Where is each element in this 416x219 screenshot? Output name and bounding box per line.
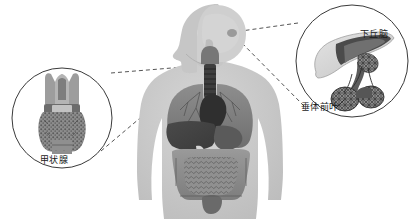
- label-anterior-pituitary: 垂体前叶: [301, 103, 339, 112]
- anatomy-illustration: [0, 0, 416, 219]
- small-intestine: [184, 157, 238, 196]
- label-thyroid: 甲状腺: [40, 156, 68, 165]
- liver: [166, 121, 216, 151]
- label-hypothalamus: 下丘脑: [360, 30, 388, 39]
- human-body: [137, 4, 283, 219]
- thyroid-gland: [38, 73, 85, 154]
- anatomy-figure: 甲状腺 下丘脑 垂体前叶: [0, 0, 416, 219]
- callout-thyroid: [12, 68, 112, 168]
- callout-pituitary: [296, 5, 408, 117]
- hypothalamus-marker: [227, 29, 237, 37]
